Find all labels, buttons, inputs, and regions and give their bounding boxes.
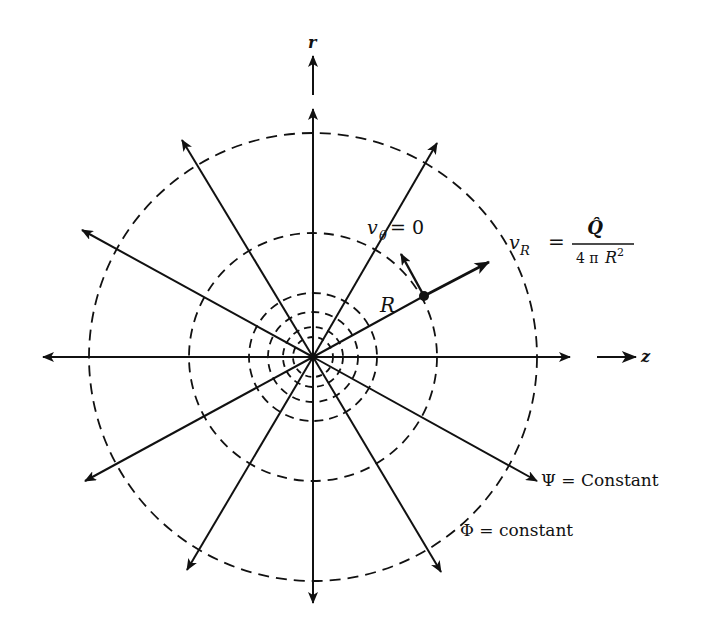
streamline-60deg xyxy=(313,357,441,572)
v-theta-vector xyxy=(401,254,424,296)
v-r-vector xyxy=(424,262,489,296)
svg-text:Q̂: Q̂ xyxy=(587,217,603,238)
streamline-210deg xyxy=(82,230,313,357)
svg-text:R: R xyxy=(519,243,530,258)
source-point xyxy=(310,354,317,361)
svg-text:R: R xyxy=(604,248,617,267)
streamline-240deg xyxy=(182,140,313,357)
streamline-120deg xyxy=(187,357,313,570)
svg-text:2: 2 xyxy=(617,246,624,259)
phi-constant-label: Φ = constant xyxy=(460,520,573,540)
field-point xyxy=(419,291,429,301)
svg-text:θ: θ xyxy=(379,228,387,243)
z-axis-label: z xyxy=(640,347,651,366)
r-axis-label: r xyxy=(308,33,318,52)
svg-text:v: v xyxy=(367,216,378,238)
v-r-label: v R = Q̂ 4 π R 2 xyxy=(509,217,634,267)
streamline-150deg xyxy=(85,357,313,481)
velocity-vectors xyxy=(401,254,489,301)
svg-text:= 0: = 0 xyxy=(390,216,424,238)
v-theta-label: v θ = 0 xyxy=(367,216,424,243)
svg-text:4 π: 4 π xyxy=(576,250,599,266)
radius-label: R xyxy=(379,293,395,317)
svg-text:=: = xyxy=(548,230,565,254)
point-source-flow-diagram: r z R v θ = 0 v R = Q̂ 4 π R 2 Ψ = Const… xyxy=(0,0,712,637)
svg-text:v: v xyxy=(509,231,520,253)
streamline-300deg xyxy=(313,143,437,357)
streamline-30deg xyxy=(313,357,537,481)
psi-constant-label: Ψ = Constant xyxy=(541,470,659,490)
